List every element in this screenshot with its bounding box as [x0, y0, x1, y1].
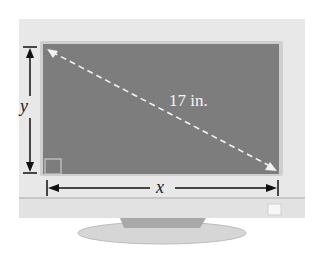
power-button — [268, 204, 281, 215]
tv-diagram — [0, 0, 312, 260]
stand-neck — [120, 218, 206, 228]
bezel-bottom — [19, 199, 305, 218]
height-label: y — [20, 97, 28, 115]
width-label: x — [156, 178, 164, 196]
diagonal-label: 17 in. — [169, 92, 208, 109]
